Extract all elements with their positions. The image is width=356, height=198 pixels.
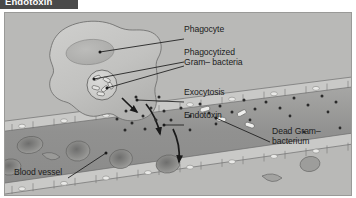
label-exocytosis: Exocytosis (184, 87, 225, 97)
label-dead-bacterium-line2: bacterium (272, 136, 309, 146)
phagocyte-cell (50, 21, 162, 121)
figure-title-banner: Endotoxin (0, 0, 78, 9)
label-exocytosis-text: Exocytosis (184, 87, 225, 97)
label-phagocyte: Phagocyte (184, 24, 224, 34)
label-phagocyte-text: Phagocyte (184, 24, 224, 34)
label-dead-bacterium-line1: Dead Gram– (272, 126, 321, 136)
figure-root: Endotoxin (0, 0, 356, 198)
label-phagocytized-line1: Phagocytized (184, 47, 235, 57)
label-phagocytized-bacteria: Phagocytized Gram– bacteria (184, 47, 243, 67)
figure-title: Endotoxin (5, 0, 52, 7)
label-blood-vessel-text: Blood vessel (14, 167, 62, 177)
phagosome (87, 70, 117, 100)
label-endotoxin: Endotoxin (184, 110, 222, 120)
label-dead-bacterium: Dead Gram– bacterium (272, 126, 321, 146)
label-endotoxin-text: Endotoxin (184, 110, 222, 120)
label-phagocytized-line2: Gram– bacteria (184, 57, 243, 67)
label-blood-vessel: Blood vessel (14, 167, 62, 177)
